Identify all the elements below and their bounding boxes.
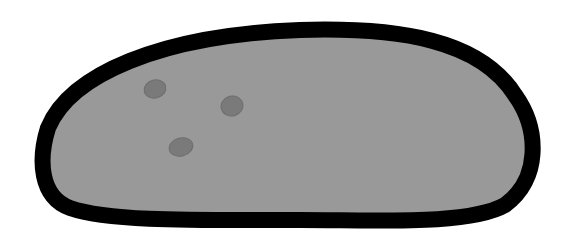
illustration-canvas: [0, 0, 579, 241]
stone-illustration: [0, 0, 579, 241]
stone-shape: [43, 30, 533, 221]
